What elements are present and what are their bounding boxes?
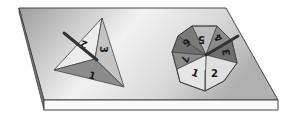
triangle-label-3: 3 bbox=[98, 46, 109, 53]
board-top bbox=[19, 8, 278, 100]
board bbox=[19, 8, 278, 110]
octagon-label-2: 2 bbox=[211, 68, 218, 79]
board-front-edge bbox=[44, 100, 278, 110]
octagon-label-5: 5 bbox=[198, 34, 205, 45]
spinner-diagram: 1 2 3 5 4 3 2 1 7 6 bbox=[0, 0, 291, 116]
diagram-canvas: 1 2 3 5 4 3 2 1 7 6 bbox=[0, 0, 291, 116]
